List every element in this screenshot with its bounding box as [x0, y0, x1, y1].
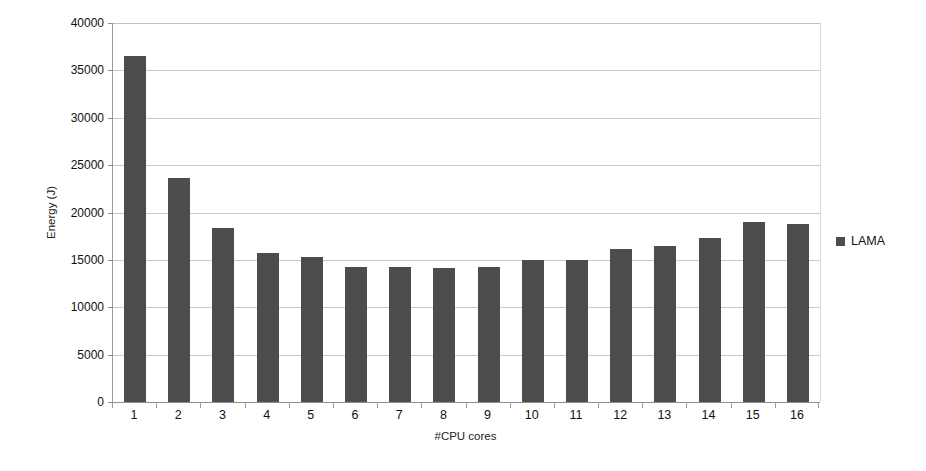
bar[interactable] — [787, 224, 809, 402]
x-tick-label: 13 — [642, 408, 686, 426]
bar-slot — [555, 23, 599, 402]
bar-slot — [511, 23, 555, 402]
bar-chart-figure: Energy (J) 05000100001500020000250003000… — [0, 0, 926, 471]
y-tick-label: 0 — [97, 395, 113, 409]
bar[interactable] — [389, 267, 411, 402]
legend-label: LAMA — [851, 234, 885, 248]
bar[interactable] — [743, 222, 765, 402]
bar-slot — [157, 23, 201, 402]
x-tick-label: 1 — [112, 408, 156, 426]
x-tick-label: 3 — [200, 408, 244, 426]
bar-slot — [113, 23, 157, 402]
legend-swatch-icon — [836, 237, 845, 246]
y-axis-title: Energy (J) — [42, 23, 60, 402]
bar[interactable] — [610, 249, 632, 402]
y-tick-label: 40000 — [71, 16, 113, 30]
y-tick-label: 20000 — [71, 206, 113, 220]
y-tick-label: 10000 — [71, 300, 113, 314]
bar[interactable] — [433, 268, 455, 402]
bar-slot — [290, 23, 334, 402]
x-tick-label: 12 — [598, 408, 642, 426]
chart-legend: LAMA — [836, 234, 885, 248]
bar-slot — [201, 23, 245, 402]
x-tick-label: 16 — [775, 408, 819, 426]
x-tick-label: 6 — [333, 408, 377, 426]
x-tick-label: 11 — [554, 408, 598, 426]
bar-slot — [643, 23, 687, 402]
x-tick-label: 8 — [421, 408, 465, 426]
bar-slot — [776, 23, 820, 402]
bar[interactable] — [699, 238, 721, 402]
x-tick-label: 5 — [289, 408, 333, 426]
bar[interactable] — [212, 228, 234, 402]
x-tick-label: 9 — [466, 408, 510, 426]
bar[interactable] — [654, 246, 676, 402]
bar[interactable] — [522, 260, 544, 402]
x-tick-label: 4 — [245, 408, 289, 426]
x-axis-title: #CPU cores — [112, 430, 819, 442]
bar-slot — [246, 23, 290, 402]
y-tick-label: 5000 — [77, 348, 113, 362]
y-tick-label: 15000 — [71, 253, 113, 267]
x-axis-tick-labels: 12345678910111213141516 — [112, 408, 819, 426]
bar[interactable] — [124, 56, 146, 402]
y-tick-label: 35000 — [71, 63, 113, 77]
bars-group — [113, 23, 820, 402]
bar[interactable] — [345, 267, 367, 402]
bar-slot — [334, 23, 378, 402]
plot-area: 0500010000150002000025000300003500040000 — [112, 23, 821, 402]
bar[interactable] — [566, 260, 588, 402]
bar[interactable] — [478, 267, 500, 402]
bar-slot — [599, 23, 643, 402]
bar[interactable] — [301, 257, 323, 402]
x-tick-label: 2 — [156, 408, 200, 426]
bar-slot — [467, 23, 511, 402]
bar-slot — [732, 23, 776, 402]
x-tick-label: 14 — [686, 408, 730, 426]
bar-slot — [687, 23, 731, 402]
x-tick-label: 15 — [731, 408, 775, 426]
bar-slot — [378, 23, 422, 402]
bar-slot — [422, 23, 466, 402]
bar[interactable] — [257, 253, 279, 402]
x-tick-label: 7 — [377, 408, 421, 426]
x-tick-label: 10 — [510, 408, 554, 426]
bar[interactable] — [168, 178, 190, 402]
y-tick-label: 25000 — [71, 158, 113, 172]
y-tick-label: 30000 — [71, 111, 113, 125]
